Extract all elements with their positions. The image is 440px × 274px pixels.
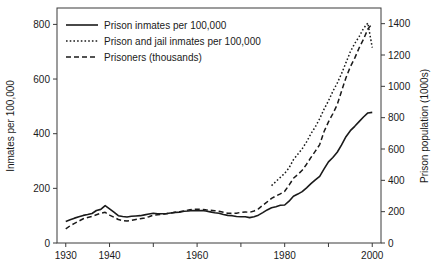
- y-tick-label-left: 600: [33, 74, 50, 85]
- y-tick-label-right: 1400: [388, 18, 411, 29]
- x-tick-label: 1980: [274, 250, 297, 261]
- legend-label: Prison and jail inmates per 100,000: [104, 36, 261, 47]
- x-tick-label: 1960: [186, 250, 209, 261]
- series-line-dotted: [272, 23, 373, 186]
- chart-canvas: 1930194019601980200002004006008000200400…: [0, 0, 440, 274]
- axis-tick-labels: 1930194019601980200002004006008000200400…: [33, 18, 410, 261]
- y-tick-label-left: 0: [44, 238, 50, 249]
- y-tick-label-right: 0: [388, 238, 394, 249]
- x-tick-label: 1930: [55, 250, 78, 261]
- y-tick-label-left: 800: [33, 19, 50, 30]
- series-line-solid: [66, 112, 372, 221]
- y-axis-right-title: Prison population (1000s): [419, 69, 430, 183]
- chart-figure: 1930194019601980200002004006008000200400…: [0, 0, 440, 274]
- chart-legend: Prison inmates per 100,000Prison and jai…: [66, 20, 261, 63]
- y-axis-left-title: Inmates per 100,000: [5, 80, 16, 172]
- y-tick-label-right: 200: [388, 206, 405, 217]
- y-tick-label-left: 200: [33, 183, 50, 194]
- y-tick-label-right: 600: [388, 144, 405, 155]
- legend-label: Prison inmates per 100,000: [104, 20, 227, 31]
- y-tick-label-right: 1200: [388, 50, 411, 61]
- x-tick-label: 1940: [98, 250, 121, 261]
- y-tick-label-right: 800: [388, 112, 405, 123]
- y-tick-label-right: 1000: [388, 81, 411, 92]
- y-tick-label-left: 400: [33, 128, 50, 139]
- x-tick-label: 2000: [361, 250, 384, 261]
- y-tick-label-right: 400: [388, 175, 405, 186]
- legend-label: Prisoners (thousands): [104, 52, 202, 63]
